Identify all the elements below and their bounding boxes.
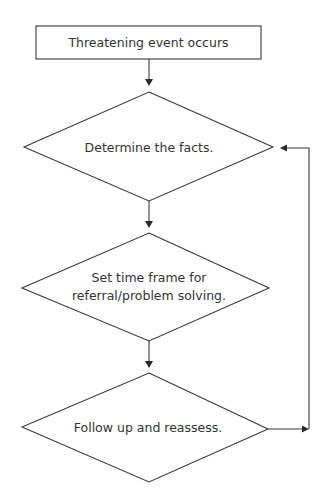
node-follow-up: Follow up and reassess. <box>22 373 268 482</box>
time-frame-label-line-2: referral/problem solving. <box>72 288 226 303</box>
arrow-down-icon <box>145 221 153 228</box>
node-set-time-frame: Set time frame for referral/problem solv… <box>22 233 269 341</box>
edge-timeframe-to-followup <box>145 341 153 368</box>
determine-facts-label: Determine the facts. <box>85 140 214 155</box>
arrow-left-icon <box>280 145 287 152</box>
arrow-down-icon <box>145 79 153 86</box>
flowchart-diagram: Threatening event occurs Determine the f… <box>0 0 329 504</box>
edge-start-to-facts <box>145 59 153 86</box>
time-frame-label-line-1: Set time frame for <box>92 270 208 285</box>
start-label: Threatening event occurs <box>67 35 228 50</box>
edge-feedback-loop <box>268 145 309 433</box>
arrow-down-icon <box>145 361 153 368</box>
follow-up-label: Follow up and reassess. <box>74 420 222 435</box>
loop-back-line <box>286 148 309 429</box>
node-determine-facts: Determine the facts. <box>24 92 273 201</box>
node-threatening-event: Threatening event occurs <box>36 26 261 59</box>
edge-facts-to-timeframe <box>145 201 153 228</box>
decision-diamond <box>22 233 269 341</box>
arrow-right-icon <box>302 426 309 433</box>
